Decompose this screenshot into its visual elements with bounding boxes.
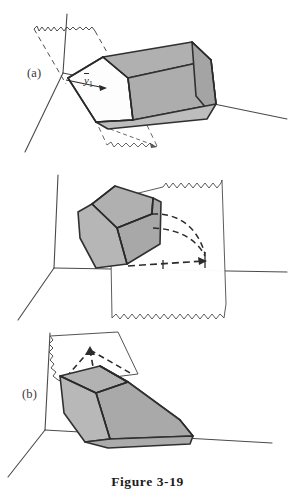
axis-diagonal-a: [25, 73, 63, 152]
panel-a: (a) y1: [0, 0, 295, 165]
panel-b-drawing: [0, 165, 295, 325]
axis-diagonal-c: [8, 430, 45, 477]
cut-label-ybar1-base: y: [84, 74, 89, 86]
torn-edge-upper-a: [34, 26, 95, 31]
cut-label-ybar1: y1: [84, 74, 93, 89]
solid-c: [60, 366, 193, 448]
panel-b: (b) y2: [0, 165, 295, 320]
figure-3-19: (a) y1: [0, 0, 295, 502]
cut-label-ybar1-sub: 1: [89, 80, 93, 89]
axis-vertical-c: [45, 333, 50, 430]
axis-vertical-b: [54, 175, 58, 268]
axis-vertical-a: [63, 14, 67, 73]
panel-label-a: (a): [27, 66, 41, 81]
torn-edge-lower-a: [107, 142, 157, 147]
dashed-edge-right-a: [95, 31, 108, 54]
panel-c-drawing: [0, 320, 295, 480]
axis-diagonal-b: [18, 268, 54, 320]
solid-front-face-c: [96, 382, 193, 439]
panel-a-drawing: [0, 0, 295, 170]
figure-caption: Figure 3-19: [0, 474, 295, 490]
panel-c: (c) y3: [0, 320, 295, 465]
